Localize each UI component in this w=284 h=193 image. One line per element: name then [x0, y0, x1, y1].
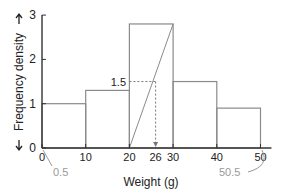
y-tick-label: 1 [29, 97, 36, 111]
axes [42, 15, 271, 148]
left-callout-label: 0.5 [53, 166, 68, 178]
x-tick-label: 20 [123, 151, 135, 163]
histogram-chart: 01230102026304050 Weight (g) Frequency d… [0, 0, 284, 193]
x-tick-label: 50 [254, 151, 266, 163]
y-tick-label: 2 [29, 52, 36, 66]
arrow-down-icon [16, 140, 22, 150]
y-tick-label: 3 [29, 8, 36, 22]
arrow-down-icon [153, 142, 158, 147]
tick-labels: 01230102026304050 [29, 8, 266, 163]
guide-value-label: 1.5 [111, 76, 126, 88]
histogram-bar [86, 90, 130, 148]
histogram-bar [173, 82, 217, 148]
arrow-up-icon [16, 14, 22, 24]
y-axis-label: Frequency density [12, 33, 26, 131]
x-tick-label: 30 [167, 151, 179, 163]
y-tick-label: 0 [29, 141, 36, 155]
histogram-svg: 01230102026304050 Weight (g) Frequency d… [0, 0, 284, 193]
histogram-bar [217, 108, 261, 148]
x-tick-label: 10 [80, 151, 92, 163]
right-callout-label: 50.5 [219, 166, 240, 178]
histogram-bar [42, 104, 86, 148]
x-tick-label: 26 [149, 151, 161, 163]
diagonal-line [129, 24, 173, 148]
x-axis-label: Weight (g) [123, 175, 178, 189]
guide-lines [129, 24, 173, 148]
y-axis-label-group: Frequency density [12, 14, 26, 150]
x-tick-label: 40 [211, 151, 223, 163]
